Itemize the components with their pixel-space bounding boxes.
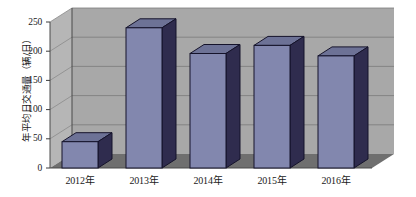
y-tick-label-0: 0: [18, 164, 42, 174]
y-tick-label-100: 100: [18, 105, 42, 115]
bar-2014: [190, 45, 240, 169]
x-tick-label-2015: 2015年: [246, 176, 298, 186]
y-tick-marks: [46, 22, 50, 168]
y-tick-label-50: 50: [18, 134, 42, 144]
x-tick-label-2013: 2013年: [118, 176, 170, 186]
bar-2016: [318, 47, 368, 168]
bar-2013: [126, 19, 176, 168]
bar-2012: [62, 133, 112, 168]
chart-canvas: [0, 0, 416, 197]
y-tick-label-200: 200: [18, 47, 42, 57]
bar-chart: 年平均日交通量（辆/日） 250 200 150 100 50 0 2012年 …: [0, 0, 416, 197]
x-tick-label-2016: 2016年: [310, 176, 362, 186]
bar-2015: [254, 36, 304, 168]
x-tick-label-2014: 2014年: [182, 176, 234, 186]
x-tick-label-2012: 2012年: [54, 176, 106, 186]
y-tick-label-250: 250: [18, 18, 42, 28]
y-tick-label-150: 150: [18, 76, 42, 86]
